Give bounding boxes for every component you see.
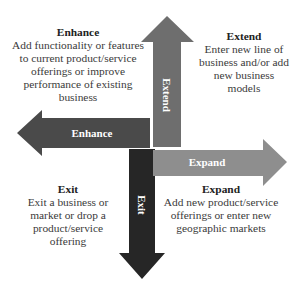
exit-description: Exit Exit a business or market or drop a… [18, 183, 118, 248]
enhance-description: Enhance Add functionality or features to… [0, 26, 156, 104]
growth-strategy-diagram: Enhance Extend Exit Expand Enhance Add f… [0, 0, 301, 292]
extend-line: business and/or add [188, 56, 300, 69]
enhance-line: to current product/service [0, 52, 156, 65]
exit-line: market or drop a [18, 209, 118, 222]
expand-title: Expand [163, 183, 279, 196]
enhance-title: Enhance [0, 26, 156, 39]
extend-title: Extend [188, 30, 300, 43]
extend-line: Enter new line of [188, 43, 300, 56]
extend-line: models [188, 82, 300, 95]
exit-title: Exit [18, 183, 118, 196]
expand-line: offerings or enter new [163, 209, 279, 222]
enhance-arrow-label: Enhance [72, 127, 113, 139]
exit-arrow-label: Exit [136, 195, 148, 215]
extend-arrow-label: Extend [161, 78, 173, 112]
extend-description: Extend Enter new line of business and/or… [188, 30, 300, 95]
enhance-line: performance of existing [0, 78, 156, 91]
exit-line: product/service [18, 222, 118, 235]
enhance-line: Add functionality or features [0, 39, 156, 52]
expand-line: geographic markets [163, 222, 279, 235]
enhance-line: offerings or improve [0, 65, 156, 78]
enhance-line: business [0, 91, 156, 104]
expand-arrow-label: Expand [189, 156, 226, 168]
exit-line: offering [18, 235, 118, 248]
expand-line: Add new product/service [163, 196, 279, 209]
extend-line: new business [188, 69, 300, 82]
exit-line: Exit a business or [18, 196, 118, 209]
expand-description: Expand Add new product/service offerings… [163, 183, 279, 235]
